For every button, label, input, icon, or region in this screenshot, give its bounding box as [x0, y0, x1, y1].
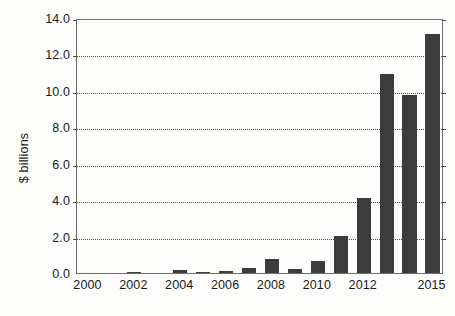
bar: [425, 34, 439, 273]
bar: [288, 269, 302, 273]
y-axis-tick-label: 6.0: [52, 158, 70, 172]
bar: [219, 271, 233, 273]
y-axis-tick-label: 4.0: [52, 194, 70, 208]
y-axis-tick-label: 14.0: [45, 12, 70, 26]
x-axis-tick-labels: 20002002200420062008201020122015: [76, 278, 443, 302]
bar: [357, 198, 371, 273]
y-axis-tick-mark: [442, 20, 446, 21]
bar: [380, 74, 394, 273]
bar: [127, 272, 141, 274]
bar: [173, 270, 187, 273]
y-axis-title-container: $ billions: [12, 0, 36, 316]
y-axis-tick-label: 0.0: [52, 267, 70, 281]
x-axis-tick-label: 2010: [303, 278, 331, 292]
y-axis-tick-label: 8.0: [52, 121, 70, 135]
bar: [196, 272, 210, 274]
x-axis-tick-label: 2000: [73, 278, 101, 292]
bar: [402, 95, 416, 274]
bar-chart: $ billions 0.02.04.06.08.010.012.014.0 2…: [0, 0, 455, 316]
x-axis-tick-label: 2015: [417, 278, 445, 292]
y-axis-tick-mark: [442, 129, 446, 130]
x-axis-tick-label: 2012: [349, 278, 377, 292]
plot-area: [76, 19, 443, 274]
x-axis-tick-label: 2006: [211, 278, 239, 292]
bars-layer: [77, 20, 442, 273]
y-axis-tick-label: 2.0: [52, 231, 70, 245]
x-axis-tick-label: 2004: [165, 278, 193, 292]
y-axis-tick-labels: 0.02.04.06.08.010.012.014.0: [34, 0, 70, 316]
y-axis-tick-label: 12.0: [45, 48, 70, 62]
y-axis-tick-mark: [442, 93, 446, 94]
y-axis-tick-mark: [442, 239, 446, 240]
x-axis-tick-label: 2008: [257, 278, 285, 292]
bar: [265, 259, 279, 273]
bar: [242, 268, 256, 273]
y-axis-title: $ billions: [12, 0, 36, 316]
y-axis-tick-mark: [442, 166, 446, 167]
y-axis-tick-mark: [442, 56, 446, 57]
bar: [334, 236, 348, 273]
y-axis-tick-mark: [442, 202, 446, 203]
bar: [311, 261, 325, 273]
y-axis-tick-label: 10.0: [45, 85, 70, 99]
x-axis-tick-label: 2002: [119, 278, 147, 292]
